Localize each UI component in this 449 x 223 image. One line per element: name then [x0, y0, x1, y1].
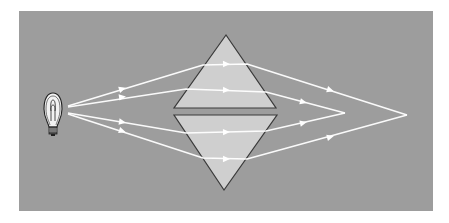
bulb-base [49, 127, 57, 134]
bulb-glass [44, 93, 62, 127]
diagram-canvas [0, 0, 449, 223]
prism-lens-diagram [0, 0, 449, 223]
